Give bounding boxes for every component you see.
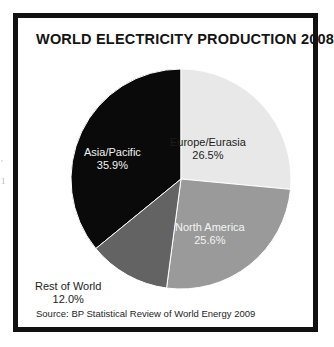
pie-label-rest-of-world: Rest of World 12.0%: [35, 280, 101, 306]
pie-label-europe-eurasia-value: 26.5%: [170, 149, 246, 162]
pie-slice-europe-eurasia[interactable]: [181, 69, 291, 189]
scan-artifact-mark-two: 1: [1, 176, 6, 187]
pie-label-asia-pacific-name: Asia/Pacific: [84, 146, 141, 158]
pie-label-asia-pacific-value: 35.9%: [84, 159, 141, 172]
figure-frame: WORLD ELECTRICITY PRODUCTION 2008 Europe…: [13, 13, 318, 332]
pie-label-rest-of-world-name: Rest of World: [35, 280, 101, 292]
pie-label-north-america: North America 25.6%: [175, 221, 245, 247]
pie-label-europe-eurasia-name: Europe/Eurasia: [170, 136, 246, 148]
pie-label-asia-pacific: Asia/Pacific 35.9%: [84, 146, 141, 172]
pie-label-rest-of-world-value: 12.0%: [35, 293, 101, 306]
scan-artifact-mark-one: ': [1, 158, 3, 169]
pie-label-north-america-value: 25.6%: [175, 234, 245, 247]
pie-chart: Europe/Eurasia 26.5% Asia/Pacific 35.9% …: [18, 18, 313, 327]
pie-label-europe-eurasia: Europe/Eurasia 26.5%: [170, 136, 246, 162]
pie-label-north-america-name: North America: [175, 221, 245, 233]
source-note: Source: BP Statistical Review of World E…: [36, 308, 255, 319]
